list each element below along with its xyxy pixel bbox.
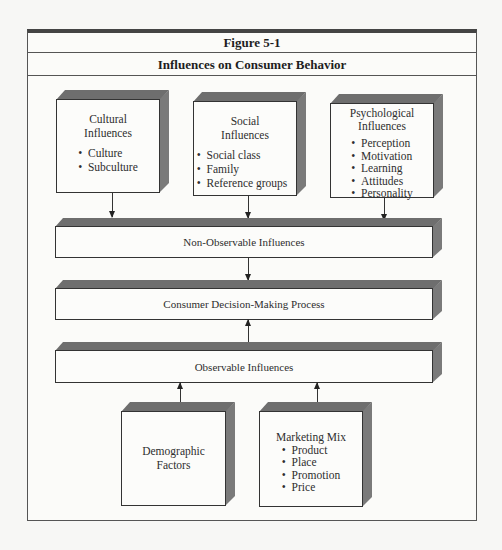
arrow-demographic-to-observable: [180, 383, 181, 402]
list-item: Attitudes: [351, 175, 413, 188]
cultural-list: Culture Subculture: [78, 146, 138, 174]
decision-making-label: Consumer Decision-Making Process: [163, 297, 324, 311]
psychological-heading-1: Psychological: [331, 107, 433, 120]
demographic-heading-1: Demographic: [122, 444, 225, 458]
social-heading-2: Influences: [194, 128, 296, 142]
list-item: Personality: [351, 187, 413, 200]
list-item: Learning: [351, 162, 413, 175]
psychological-list: Perception Motivation Learning Attitudes…: [351, 137, 413, 200]
list-item: Product: [282, 444, 340, 457]
cultural-heading-2: Influences: [57, 126, 159, 140]
marketing-mix-heading: Marketing Mix: [260, 431, 362, 444]
arrow-marketing-to-observable: [317, 383, 318, 402]
list-item: Reference groups: [197, 176, 288, 190]
list-item: Social class: [197, 148, 288, 162]
arrow-observable-to-decision: [248, 320, 249, 342]
figure-label: Figure 5-1: [27, 33, 477, 53]
list-item: Culture: [78, 146, 138, 160]
demographic-heading-2: Factors: [122, 458, 225, 472]
cultural-heading-1: Cultural: [57, 112, 159, 126]
list-item: Motivation: [351, 150, 413, 163]
non-observable-label: Non-Observable Influences: [183, 235, 304, 249]
arrow-cultural-to-nonobservable: [112, 193, 113, 217]
figure-title: Influences on Consumer Behavior: [27, 53, 477, 76]
observable-label: Observable Influences: [195, 360, 294, 374]
list-item: Place: [282, 456, 340, 469]
marketing-mix-list: Product Place Promotion Price: [282, 444, 340, 494]
list-item: Perception: [351, 137, 413, 150]
psychological-heading-2: Influences: [331, 120, 433, 133]
list-item: Family: [197, 162, 288, 176]
list-item: Promotion: [282, 469, 340, 482]
list-item: Price: [282, 481, 340, 494]
list-item: Subculture: [78, 160, 138, 174]
arrow-social-to-nonobservable: [248, 196, 249, 218]
arrow-nonobservable-to-decision: [248, 258, 249, 280]
social-list: Social class Family Reference groups: [197, 148, 288, 190]
social-heading-1: Social: [194, 114, 296, 128]
arrow-psychological-to-nonobservable: [384, 198, 385, 220]
